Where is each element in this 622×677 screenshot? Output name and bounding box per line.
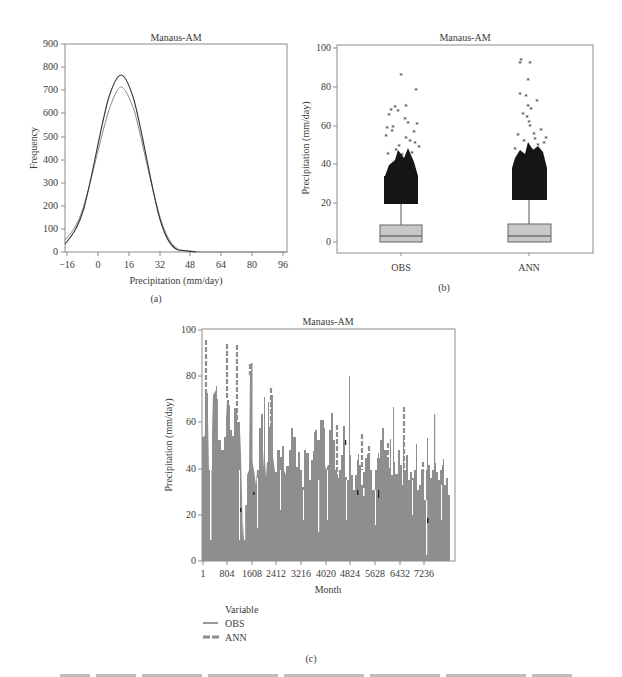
chart-a-x-axis	[67, 252, 283, 256]
svg-text:0: 0	[191, 555, 196, 566]
svg-text:*: *	[415, 121, 419, 129]
svg-text:48: 48	[185, 259, 195, 270]
svg-text:*: *	[386, 151, 390, 159]
svg-text:*: *	[516, 132, 520, 140]
chart-b-y-tick-labels: 0 20 40 60 80 100	[316, 42, 331, 247]
chart-b-title: Manaus-AM	[439, 32, 490, 43]
svg-text:16: 16	[124, 259, 134, 270]
svg-text:0: 0	[96, 259, 101, 270]
chart-a: Manaus-AM 0 100 200 300 400 500 600 700 …	[28, 32, 288, 305]
svg-text:80: 80	[321, 81, 331, 92]
svg-text:1608: 1608	[242, 568, 262, 579]
svg-text:*: *	[399, 72, 403, 80]
svg-text:5628: 5628	[365, 568, 385, 579]
svg-text:*: *	[522, 138, 526, 146]
legend-obs-label: OBS	[225, 618, 244, 629]
svg-text:−16: −16	[59, 259, 75, 270]
svg-text:*: *	[529, 106, 533, 114]
svg-text:60: 60	[321, 120, 331, 131]
svg-text:*: *	[396, 108, 400, 116]
svg-text:100: 100	[181, 324, 196, 335]
svg-text:40: 40	[186, 463, 196, 474]
svg-text:*: *	[414, 87, 418, 95]
chart-a-y-label: Frequency	[28, 127, 39, 169]
svg-text:2412: 2412	[266, 568, 286, 579]
svg-text:804: 804	[220, 568, 235, 579]
chart-a-x-tick-labels: −16 0 16 32 48 64 80 96	[59, 259, 288, 270]
chart-c-legend: Variable OBS ANN	[203, 604, 259, 643]
svg-text:*: *	[404, 103, 408, 111]
svg-text:800: 800	[43, 61, 58, 72]
chart-a-panel-label: (a)	[150, 293, 161, 305]
svg-text:60: 60	[186, 416, 196, 427]
chart-c-y-label: Precipitation (mm/day)	[163, 398, 175, 491]
chart-a-x-label: Precipitation (mm/day)	[129, 275, 222, 287]
svg-text:*: *	[513, 146, 517, 154]
svg-text:*: *	[539, 127, 543, 135]
chart-c-x-axis	[203, 561, 424, 565]
chart-c-x-label: Month	[315, 584, 342, 595]
chart-b-y-label: Precipitation (mm/day)	[300, 101, 312, 194]
svg-text:*: *	[408, 138, 412, 146]
svg-text:*: *	[530, 147, 534, 155]
svg-text:*: *	[526, 77, 530, 85]
svg-text:3216: 3216	[291, 568, 311, 579]
svg-text:*: *	[518, 60, 522, 68]
svg-text:900: 900	[43, 38, 58, 49]
svg-text:200: 200	[43, 200, 58, 211]
figure: Manaus-AM 0 100 200 300 400 500 600 700 …	[0, 0, 622, 677]
svg-text:100: 100	[43, 223, 58, 234]
chart-b-obs-box: *** *** *** *** *** *** *** ***	[380, 72, 422, 242]
svg-text:500: 500	[43, 131, 58, 142]
svg-text:*: *	[528, 60, 532, 68]
chart-a-ann-curve	[65, 87, 287, 252]
svg-text:100: 100	[316, 42, 331, 53]
chart-b-ann-box: *** *** *** *** *** *** *** **	[508, 57, 551, 242]
svg-text:700: 700	[43, 84, 58, 95]
svg-text:*: *	[397, 143, 401, 151]
chart-b: Manaus-AM 0 20 40 60 80 100 Precipitatio…	[300, 32, 593, 294]
svg-text:96: 96	[278, 259, 288, 270]
svg-text:*: *	[385, 125, 389, 133]
svg-text:*: *	[406, 120, 410, 128]
legend-title: Variable	[225, 604, 259, 615]
svg-text:1: 1	[201, 568, 206, 579]
chart-c: Manaus-AM	[163, 316, 455, 665]
chart-c-y-axis	[198, 330, 202, 561]
svg-text:*: *	[536, 142, 540, 150]
svg-text:80: 80	[247, 259, 257, 270]
svg-text:*: *	[535, 98, 539, 106]
svg-text:*: *	[390, 128, 394, 136]
svg-text:*: *	[387, 112, 391, 120]
chart-c-panel-label: (c)	[305, 653, 316, 665]
svg-text:32: 32	[155, 259, 165, 270]
svg-text:400: 400	[43, 154, 58, 165]
svg-text:7236: 7236	[414, 568, 434, 579]
svg-text:64: 64	[216, 259, 226, 270]
legend-ann-label: ANN	[225, 632, 247, 643]
svg-text:20: 20	[321, 197, 331, 208]
svg-text:*: *	[394, 147, 398, 155]
svg-text:0: 0	[326, 236, 331, 247]
chart-b-panel-label: (b)	[438, 282, 450, 294]
svg-text:*: *	[400, 152, 404, 160]
svg-text:*: *	[417, 144, 421, 152]
svg-text:*: *	[410, 150, 414, 158]
chart-a-title: Manaus-AM	[150, 32, 201, 43]
chart-b-frame	[337, 45, 593, 253]
svg-text:*: *	[542, 140, 546, 148]
chart-b-y-axis	[333, 48, 337, 242]
svg-text:*: *	[384, 133, 388, 141]
svg-text:20: 20	[186, 509, 196, 520]
svg-text:6432: 6432	[390, 568, 410, 579]
chart-c-x-tick-labels: 1 804 1608 2412 3216 4020 4824 5628 6432…	[201, 568, 435, 579]
svg-text:*: *	[524, 93, 528, 101]
chart-b-category-obs: OBS	[391, 262, 410, 273]
svg-text:300: 300	[43, 177, 58, 188]
svg-text:40: 40	[321, 158, 331, 169]
svg-text:*: *	[528, 123, 532, 131]
chart-c-y-tick-labels: 0 20 40 60 80 100	[181, 324, 196, 566]
chart-c-title: Manaus-AM	[302, 316, 353, 327]
svg-text:*: *	[412, 129, 416, 137]
svg-text:4824: 4824	[340, 568, 360, 579]
